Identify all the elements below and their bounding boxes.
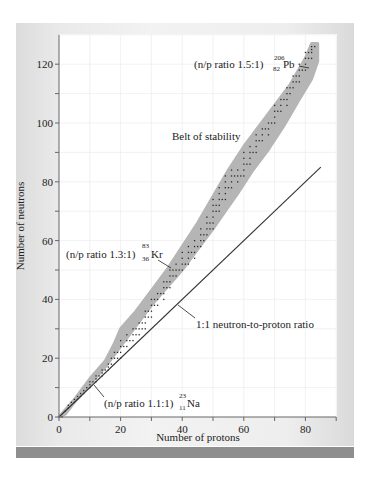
nuclide-point <box>197 246 198 247</box>
y-axis-ticks: 020406080100120 <box>37 58 60 423</box>
nuclide-point <box>126 334 127 335</box>
nuclide-point <box>142 328 143 329</box>
nuclide-point <box>265 128 266 129</box>
y-tick-label: 80 <box>42 176 54 188</box>
nuclide-point <box>237 169 238 170</box>
nuclide-point <box>289 87 290 88</box>
annotation-pb-atomic: 82 <box>273 65 281 73</box>
nuclide-point <box>86 387 87 388</box>
nuclide-point <box>191 252 192 253</box>
nuclide-point <box>135 334 136 335</box>
nuclide-point <box>126 346 127 347</box>
nuclide-point <box>172 269 173 270</box>
nuclide-point <box>240 175 241 176</box>
nuclide-point <box>151 316 152 317</box>
nuclide-point <box>138 328 139 329</box>
x-tick-label: 20 <box>115 423 127 435</box>
nuclide-point <box>77 396 78 397</box>
nuclide-point <box>105 369 106 370</box>
nuclide-point <box>231 187 232 188</box>
nuclide-point <box>252 152 253 153</box>
nuclide-point <box>194 252 195 253</box>
nuclide-point <box>259 140 260 141</box>
nuclide-point <box>114 358 115 359</box>
nuclide-point <box>219 199 220 200</box>
nuclide-point <box>299 64 300 65</box>
nuclide-point <box>237 175 238 176</box>
nuclide-point <box>243 164 244 165</box>
nuclide-point <box>296 75 297 76</box>
nuclide-point <box>296 81 297 82</box>
nuclide-point <box>200 228 201 229</box>
nuclide-point <box>268 128 269 129</box>
nuclide-point <box>111 363 112 364</box>
nuclide-point <box>231 169 232 170</box>
nuclide-point <box>256 152 257 153</box>
nuclide-point <box>142 322 143 323</box>
nuclide-point <box>200 234 201 235</box>
nuclide-point <box>212 216 213 217</box>
nuclide-point <box>151 305 152 306</box>
nuclide-point <box>145 316 146 317</box>
nuclide-point <box>219 193 220 194</box>
nuclide-point <box>289 93 290 94</box>
annotation-na-symbol: Na <box>187 397 200 409</box>
nuclide-point <box>231 175 232 176</box>
nuclide-point <box>286 99 287 100</box>
y-tick-label: 20 <box>42 352 54 364</box>
y-tick-label: 100 <box>37 117 54 129</box>
nuclide-point <box>166 287 167 288</box>
nuclide-point <box>117 352 118 353</box>
nuclide-point <box>292 75 293 76</box>
nuclide-point <box>175 275 176 276</box>
nuclide-point <box>175 269 176 270</box>
nuclide-point <box>271 122 272 123</box>
annotation-kr-atomic: 36 <box>142 255 150 263</box>
nuclide-point <box>268 122 269 123</box>
nuclide-point <box>299 75 300 76</box>
nuclide-point <box>243 152 244 153</box>
nuclide-point <box>299 69 300 70</box>
nuclide-point <box>71 402 72 403</box>
nuclide-point <box>145 311 146 312</box>
nuclide-point <box>231 181 232 182</box>
x-axis-title: Number of protons <box>156 431 240 443</box>
nuclide-point <box>80 393 81 394</box>
nuclide-point <box>206 216 207 217</box>
nuclide-point <box>169 269 170 270</box>
nuclide-point <box>302 69 303 70</box>
nuclide-point <box>160 293 161 294</box>
nuclide-point <box>209 222 210 223</box>
nuclide-point <box>212 205 213 206</box>
nuclide-point <box>228 187 229 188</box>
nuclide-point <box>243 175 244 176</box>
annotation-kr-mass: 83 <box>142 242 150 250</box>
nuclide-point <box>314 46 315 47</box>
nuclide-point <box>169 287 170 288</box>
nuclide-point <box>308 52 309 53</box>
nuclide-point <box>108 366 109 367</box>
nuclide-point <box>92 381 93 382</box>
nuclide-point <box>268 134 269 135</box>
nuclide-point <box>120 346 121 347</box>
nuclide-point <box>194 246 195 247</box>
nuclide-point <box>225 181 226 182</box>
nuclide-point <box>132 328 133 329</box>
nuclide-point <box>243 158 244 159</box>
nuclide-point <box>212 199 213 200</box>
nuclide-point <box>157 305 158 306</box>
nuclide-point <box>212 211 213 212</box>
nuclide-point <box>311 46 312 47</box>
nuclide-point <box>215 211 216 212</box>
chart: 020406080 020406080100120 Number of prot… <box>0 0 371 482</box>
nuclide-point <box>182 258 183 259</box>
nuclide-point <box>219 211 220 212</box>
nuclide-point <box>305 69 306 70</box>
nuclide-point <box>163 299 164 300</box>
annotation-na-atomic: 11 <box>179 404 186 412</box>
nuclide-point <box>135 328 136 329</box>
nuclide-point <box>311 58 312 59</box>
nuclide-point <box>163 293 164 294</box>
nuclide-point <box>175 264 176 265</box>
annotation-na-mass: 23 <box>179 392 187 400</box>
